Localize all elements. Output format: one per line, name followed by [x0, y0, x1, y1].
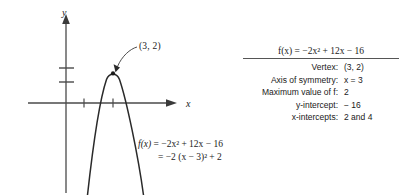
x-axis [28, 99, 177, 107]
table-row: Maximum value of f: 2 [243, 86, 399, 99]
row-label-vertex: Vertex: [243, 61, 344, 74]
parabola-curve [88, 74, 144, 195]
graph-panel: y x (3, 2) f(x) = −2x² + 12x − 16 = −2 (… [0, 0, 210, 195]
summary-table: f(x) = −2x² + 12x − 16 Vertex: (3, 2) Ax… [243, 46, 399, 124]
summary-title: f(x) = −2x² + 12x − 16 [243, 46, 399, 59]
figure-parabola-summary: y x (3, 2) f(x) = −2x² + 12x − 16 = −2 (… [0, 0, 404, 195]
x-axis-label: x [186, 99, 190, 109]
table-row: Vertex: (3, 2) [243, 61, 399, 74]
row-value-y-intercept: − 16 [344, 99, 399, 112]
row-label-axis-of-symmetry: Axis of symmetry: [243, 74, 344, 87]
vertex-annotation-label: (3, 2) [139, 41, 161, 51]
y-axis-label: y [62, 8, 66, 18]
row-value-x-intercepts: 2 and 4 [344, 111, 399, 124]
row-value-vertex: (3, 2) [344, 61, 399, 74]
row-value-axis-of-symmetry: x = 3 [344, 74, 399, 87]
parabola-graph [0, 0, 210, 195]
equation-line-2: = −2 (x − 3)² + 2 [138, 151, 223, 164]
row-label-y-intercept: y-intercept: [243, 99, 344, 112]
equation-block: f(x) = −2x² + 12x − 16 = −2 (x − 3)² + 2 [138, 138, 223, 164]
row-label-x-intercepts: x-intercepts: [243, 111, 344, 124]
equation-line-1-body: = −2x² + 12x − 16 [151, 139, 223, 149]
vertex-point [111, 71, 115, 75]
equation-line-1: f(x) = −2x² + 12x − 16 [138, 138, 223, 151]
table-row: y-intercept: − 16 [243, 99, 399, 112]
equation-function-notation: f(x) [138, 139, 151, 149]
table-row: Axis of symmetry: x = 3 [243, 74, 399, 87]
vertex-leader-line [114, 47, 137, 72]
row-value-maximum-value: 2 [344, 86, 399, 99]
summary-rows: Vertex: (3, 2) Axis of symmetry: x = 3 M… [243, 61, 399, 124]
row-label-maximum-value: Maximum value of f: [243, 86, 344, 99]
table-row: x-intercepts: 2 and 4 [243, 111, 399, 124]
